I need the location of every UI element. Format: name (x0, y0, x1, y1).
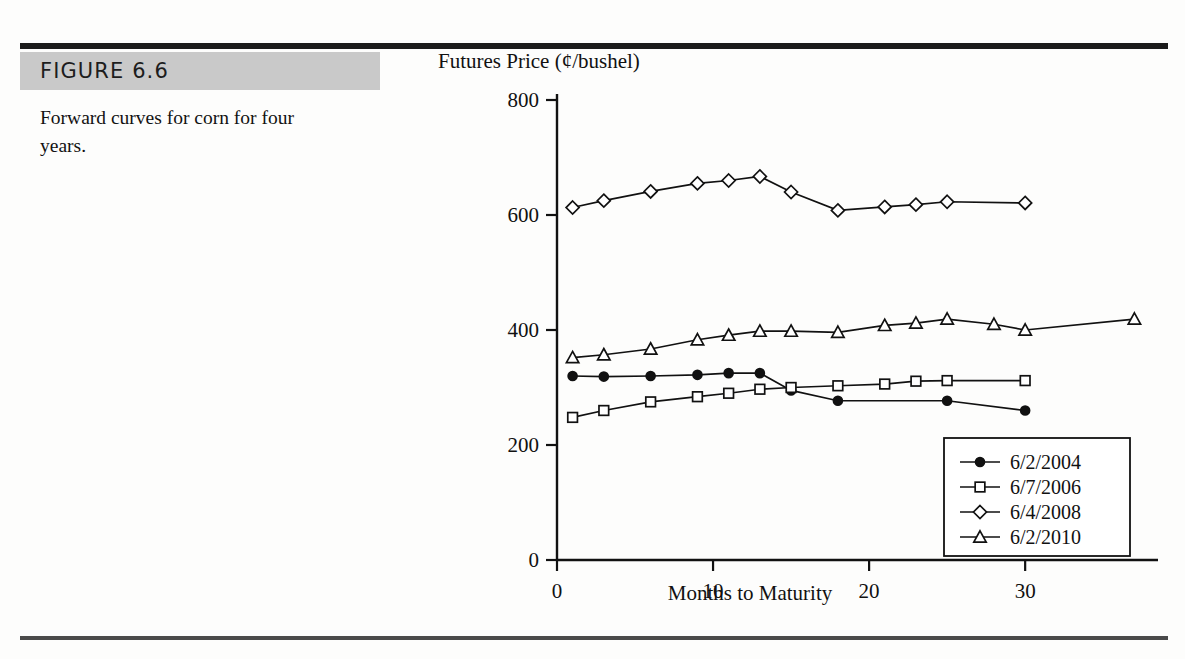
x-tick-label: 20 (859, 579, 880, 603)
y-tick-label: 800 (508, 88, 540, 112)
data-point-marker (1020, 376, 1030, 386)
data-point-marker (755, 384, 765, 394)
figure-caption-block: FIGURE 6.6 Forward curves for corn for f… (20, 52, 380, 159)
data-point-marker (568, 372, 577, 381)
data-point-marker (1021, 406, 1030, 415)
data-point-marker (646, 397, 656, 407)
data-point-marker (691, 177, 704, 190)
data-point-marker (568, 413, 578, 423)
chart-svg: 02004006008000102030 6/2/20046/7/20066/4… (420, 52, 1160, 612)
data-point-marker (911, 376, 921, 386)
data-point-marker (880, 379, 890, 389)
x-tick-label: 0 (552, 579, 563, 603)
y-tick-label: 400 (508, 318, 540, 342)
legend-label: 6/7/2006 (1010, 476, 1081, 498)
data-point-marker (975, 482, 985, 492)
figure-caption-text: Forward curves for corn for four years. (20, 104, 300, 159)
data-point-marker (724, 369, 733, 378)
chart-series (566, 170, 1140, 422)
series-6-2-2004 (568, 369, 1029, 415)
data-point-marker (755, 369, 764, 378)
data-point-marker (693, 392, 703, 402)
figure-page: FIGURE 6.6 Forward curves for corn for f… (0, 0, 1185, 659)
data-point-marker (941, 195, 954, 208)
data-point-marker (941, 313, 953, 324)
data-point-marker (976, 458, 985, 467)
data-point-marker (597, 194, 610, 207)
figure-label: FIGURE 6.6 (40, 59, 169, 83)
x-tick-label: 30 (1015, 579, 1036, 603)
y-axis-title: Futures Price (¢/bushel) (438, 52, 640, 73)
data-point-marker (785, 185, 798, 198)
figure-label-band: FIGURE 6.6 (20, 52, 380, 90)
data-point-marker (831, 204, 844, 217)
data-point-marker (646, 372, 655, 381)
top-rule (20, 43, 1168, 49)
x-axis-title: Months to Maturity (668, 581, 833, 605)
data-point-marker (786, 383, 796, 393)
data-point-marker (1128, 313, 1140, 324)
data-point-marker (878, 200, 891, 213)
data-point-marker (943, 396, 952, 405)
data-point-marker (942, 376, 952, 386)
data-point-marker (1019, 196, 1032, 209)
data-point-marker (693, 370, 702, 379)
data-point-marker (599, 372, 608, 381)
data-point-marker (753, 170, 766, 183)
legend-label: 6/2/2004 (1010, 451, 1081, 473)
data-point-marker (599, 406, 609, 416)
legend-label: 6/4/2008 (1010, 501, 1081, 523)
legend-label: 6/2/2010 (1010, 526, 1081, 548)
data-point-marker (833, 381, 843, 391)
data-point-marker (566, 201, 579, 214)
bottom-rule (20, 636, 1168, 640)
series-6-2-2010 (566, 313, 1140, 363)
chart-legend: 6/2/20046/7/20066/4/20086/2/2010 (944, 438, 1130, 556)
data-point-marker (644, 185, 657, 198)
y-tick-label: 0 (529, 548, 540, 572)
y-tick-label: 200 (508, 433, 540, 457)
data-point-marker (724, 388, 734, 398)
forward-curves-chart: 02004006008000102030 6/2/20046/7/20066/4… (420, 52, 1160, 612)
series-6-4-2008 (566, 170, 1032, 217)
data-point-marker (722, 174, 735, 187)
y-tick-label: 600 (508, 203, 540, 227)
data-point-marker (909, 198, 922, 211)
data-point-marker (833, 396, 842, 405)
series-6-7-2006 (568, 376, 1030, 422)
